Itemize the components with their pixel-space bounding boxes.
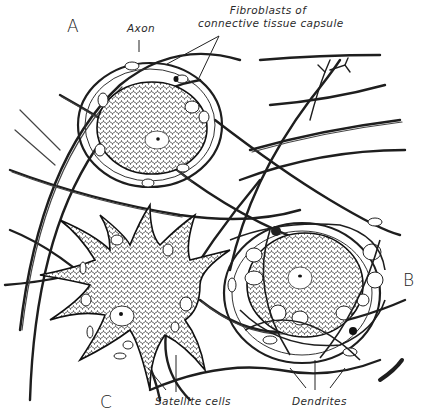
label-fibroblasts: Fibroblasts of connective tissue capsule bbox=[198, 4, 338, 30]
neuron-a bbox=[78, 62, 222, 187]
label-fibroblasts-line1: Fibroblasts of bbox=[198, 4, 338, 17]
neuron-b bbox=[224, 218, 385, 363]
label-axon: Axon bbox=[127, 22, 155, 34]
panel-letter-b: B bbox=[403, 270, 414, 290]
histology-drawing bbox=[0, 0, 424, 417]
label-satellite-cells: Satellite cells bbox=[155, 395, 231, 407]
panel-letter-c: C bbox=[100, 392, 112, 412]
label-dendrites: Dendrites bbox=[292, 395, 347, 407]
panel-letter-a: A bbox=[67, 16, 79, 36]
label-fibroblasts-line2: connective tissue capsule bbox=[198, 17, 338, 30]
neuron-c bbox=[40, 205, 230, 390]
neuron-illustration: A B C Axon Fibroblasts of connective tis… bbox=[0, 0, 424, 417]
